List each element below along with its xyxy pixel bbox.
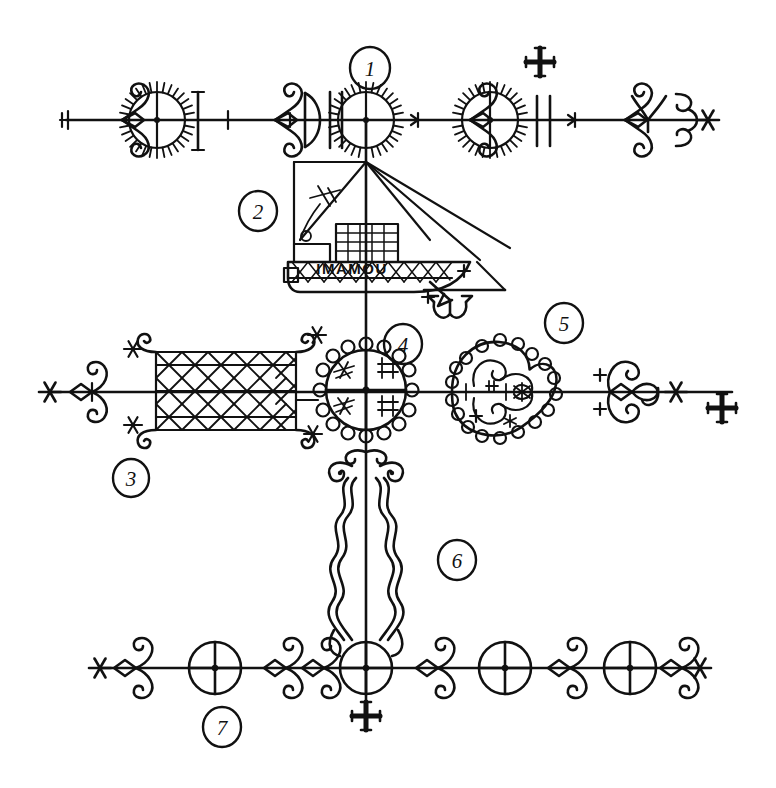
label-6-text: 6 (452, 549, 463, 573)
ship-flag-mark (310, 186, 340, 206)
veve-svg: 1 (0, 0, 776, 788)
heart-inner-volute-bottom (473, 398, 505, 424)
bottom-left-star-icon (89, 659, 111, 678)
label-7: 7 (203, 707, 241, 747)
top-sun-disc-1-icon (119, 82, 195, 158)
cross-pattee-right-icon (708, 394, 736, 422)
serpent-right-eye (390, 471, 394, 475)
label-2: 2 (239, 191, 277, 231)
top-axis-group: 1 (60, 47, 719, 158)
cross-pattee-bottom-icon (352, 702, 380, 730)
middle-left-star-icon (39, 383, 61, 402)
label-2-text: 2 (253, 200, 264, 224)
top-axis-right-star-icon (697, 111, 719, 130)
lattice-box-group (138, 334, 318, 448)
scalloped-heart-group (446, 334, 562, 444)
heart-mark-star (504, 415, 516, 427)
serpent-left-body-2 (337, 478, 356, 640)
middle-asterisk-2-icon (124, 417, 142, 433)
serpent-crown-right (366, 450, 386, 463)
label-6: 6 (438, 540, 476, 580)
bottom-cross-circle-3-icon (604, 642, 656, 694)
veve-drawing-canvas: 1 (0, 0, 776, 788)
middle-right-plus-1 (594, 369, 606, 381)
bottom-cross-circle-1-icon (189, 642, 241, 694)
ship-imamou-group: IMAMOU 2 (239, 162, 510, 318)
disc-mark-q4 (378, 396, 398, 416)
heart-scallops (446, 334, 562, 444)
serpent-left-eye (338, 471, 342, 475)
ship-rudder-box (284, 268, 298, 282)
cross-pattee-top-icon (526, 48, 554, 76)
middle-axis-group: 3 (39, 303, 736, 497)
disc-mark-q1 (334, 362, 354, 378)
middle-right-star-icon (665, 383, 687, 402)
label-7-text: 7 (217, 716, 229, 740)
serpent-crown-left (346, 450, 366, 463)
serpent-right-body-2 (376, 478, 395, 640)
disc-mark-q3 (334, 398, 354, 414)
lattice-corner-curl-bl (138, 430, 156, 448)
top-curl-lower (676, 129, 691, 146)
quartered-disc-hub (363, 387, 370, 394)
heart-center-marks (486, 381, 498, 391)
lattice-box-hatch (156, 352, 296, 430)
label-5: 5 (545, 303, 583, 343)
label-1: 1 (350, 47, 390, 89)
ship-hull-name-text: IMAMOU (316, 260, 388, 277)
bottom-axis-group: 7 (89, 630, 711, 747)
bottom-cross-circle-2-icon (479, 642, 531, 694)
label-1-text: 1 (365, 57, 376, 81)
label-5-text: 5 (559, 312, 570, 336)
middle-asterisk-1-icon (124, 341, 142, 357)
label-3-text: 3 (125, 467, 137, 491)
bottom-center-cross-circle-icon (340, 642, 392, 694)
top-axis-left-terminal-cross-icon (60, 111, 74, 129)
middle-right-plus-2 (594, 403, 606, 415)
ship-anchor-icon (428, 282, 472, 318)
top-sun-disc-2-icon (452, 82, 528, 158)
label-4-text: 4 (398, 333, 409, 357)
label-3: 3 (113, 459, 149, 497)
